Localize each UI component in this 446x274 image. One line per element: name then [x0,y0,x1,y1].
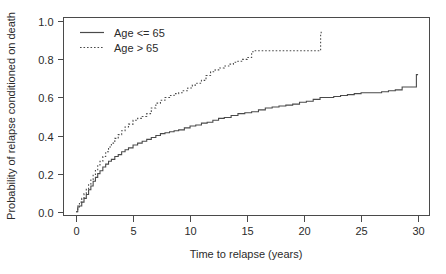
x-tick-label: 0 [73,225,79,237]
y-tick-label: 0.8 [38,54,53,66]
y-tick-label: 0.0 [38,207,53,219]
y-axis-ticks: 0.00.20.40.60.81.0 [38,16,63,219]
legend: Age <= 65 Age > 65 [76,22,194,56]
y-axis-title: Probability of relapse conditioned on de… [5,12,17,220]
x-axis-title: Time to relapse (years) [190,248,303,260]
y-tick-label: 1.0 [38,16,53,28]
y-tick-label: 0.2 [38,169,53,181]
cumulative-incidence-plot: 051015202530 0.00.20.40.60.81.0 Age <= 6… [0,0,446,274]
x-tick-label: 20 [298,225,310,237]
y-tick-label: 0.4 [38,131,53,143]
y-tick-label: 0.6 [38,92,53,104]
x-tick-label: 25 [355,225,367,237]
series-line-age-gt-65 [76,31,321,212]
x-axis-ticks: 051015202530 [73,216,424,237]
x-tick-label: 10 [184,225,196,237]
legend-label-age-gt-65: Age > 65 [114,42,158,54]
data-series-group [76,31,418,212]
legend-label-age-le-65: Age <= 65 [114,27,165,39]
series-line-age-le-65 [76,75,418,212]
x-tick-label: 15 [241,225,253,237]
x-tick-label: 5 [130,225,136,237]
chart-figure: 051015202530 0.00.20.40.60.81.0 Age <= 6… [0,0,446,274]
x-tick-label: 30 [412,225,424,237]
